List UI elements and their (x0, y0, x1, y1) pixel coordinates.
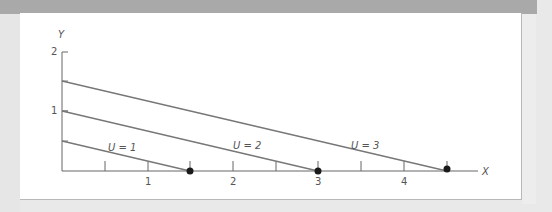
dot-u3 (444, 166, 451, 173)
x-tick-label-4: 4 (401, 176, 407, 187)
label-u1: U = 1 (108, 142, 136, 153)
x-tick-label-3: 3 (315, 176, 321, 187)
x-tick-label-1: 1 (145, 176, 151, 187)
x-tick-label-2: 2 (230, 176, 236, 187)
y-tick-label-1: 1 (51, 105, 57, 116)
dot-u1 (187, 168, 194, 175)
x-axis-label: X (481, 166, 490, 177)
y-axis-label: Y (58, 29, 65, 40)
label-u3: U = 3 (351, 140, 379, 151)
indifference-curves-diagram: 2 1 Y 1 2 3 4 X U = 1 U = 2 U = 3 (0, 0, 552, 212)
y-tick-label-2: 2 (51, 46, 57, 57)
line-u3 (62, 81, 447, 171)
dot-u2 (315, 168, 322, 175)
label-u2: U = 2 (233, 140, 261, 151)
